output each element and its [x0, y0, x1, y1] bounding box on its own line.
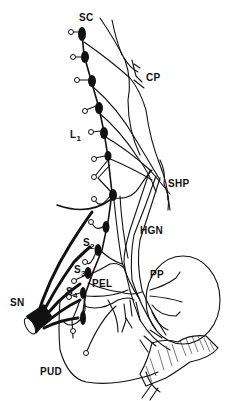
label-s2-sub: 2 — [90, 242, 95, 251]
label-s4-main: S — [66, 286, 73, 297]
label-pud: PUD — [40, 367, 62, 377]
label-l1: L1 — [70, 130, 81, 143]
label-pel: PEL — [92, 279, 112, 289]
label-hgn: HGN — [140, 226, 163, 236]
label-pp: PP — [150, 270, 164, 280]
label-shp: SHP — [168, 179, 189, 189]
label-l1-sub: 1 — [76, 134, 81, 143]
label-s4-sub: 4 — [73, 291, 78, 300]
label-s2-main: S — [83, 237, 90, 248]
splanchnic-nerves — [84, 18, 170, 210]
label-sc: SC — [79, 13, 94, 23]
label-s3-main: S — [74, 264, 81, 275]
label-s4: S4 — [66, 287, 78, 300]
label-s3-sub: 3 — [81, 269, 86, 278]
pelvic-nerves — [84, 250, 142, 332]
pudendal-nerve — [59, 300, 158, 383]
label-s2: S2 — [83, 238, 95, 251]
label-s3: S3 — [74, 265, 86, 278]
label-sn: SN — [10, 298, 25, 308]
pelvic-innervation-diagram — [0, 0, 231, 401]
hypogastric-nerve — [114, 170, 170, 350]
label-cp: CP — [146, 73, 161, 83]
hatched-urethra — [140, 336, 218, 400]
sciatic-nerve — [22, 200, 110, 336]
